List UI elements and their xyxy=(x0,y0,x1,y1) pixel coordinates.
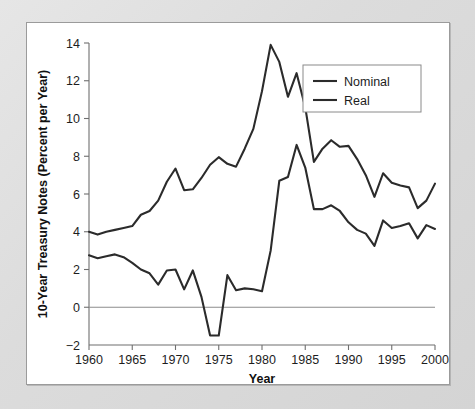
y-tick-label: 6 xyxy=(73,188,80,202)
y-axis-tick-labels: −202468101214 xyxy=(66,37,80,353)
legend-label-nominal: Nominal xyxy=(344,75,390,89)
x-tick-label: 1980 xyxy=(248,353,276,367)
x-tick-label: 1970 xyxy=(162,353,190,367)
y-tick-label: 8 xyxy=(73,150,80,164)
plot-area: −202468101214 19601965197019751980198519… xyxy=(27,23,449,384)
x-tick-label: 1990 xyxy=(335,353,363,367)
legend-label-real: Real xyxy=(344,94,370,108)
y-tick-label: 14 xyxy=(66,37,80,51)
x-axis-title: Year xyxy=(249,372,276,384)
y-axis-title: 10-Year Treasury Notes (Percent per Year… xyxy=(36,70,50,319)
y-tick-label: 0 xyxy=(73,301,80,315)
x-tick-label: 2000 xyxy=(421,353,449,367)
y-tick-label: 4 xyxy=(73,225,80,239)
y-tick-label: 2 xyxy=(73,263,80,277)
chart-frame: −202468101214 19601965197019751980198519… xyxy=(26,22,450,385)
x-axis-tick-labels: 196019651970197519801985199019952000 xyxy=(75,353,449,367)
y-tick-label: 12 xyxy=(66,74,80,88)
line-chart: −202468101214 19601965197019751980198519… xyxy=(27,23,449,384)
chart-legend: NominalReal xyxy=(303,65,421,112)
x-tick-label: 1995 xyxy=(378,353,406,367)
x-tick-label: 1965 xyxy=(118,353,146,367)
y-tick-label: 10 xyxy=(66,112,80,126)
x-tick-label: 1985 xyxy=(291,353,319,367)
x-tick-label: 1975 xyxy=(205,353,233,367)
x-tick-label: 1960 xyxy=(75,353,103,367)
y-tick-label: −2 xyxy=(66,339,80,353)
